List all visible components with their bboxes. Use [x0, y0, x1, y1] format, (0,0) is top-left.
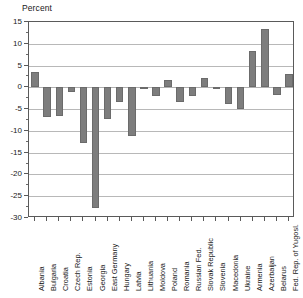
y-tick-label: -25	[10, 191, 22, 200]
x-tick-label: Macedonia	[231, 255, 240, 291]
x-tick	[276, 217, 277, 221]
bar	[80, 87, 88, 143]
y-axis: 151050-5-10-15-20-25-30	[0, 21, 28, 217]
chart-title: Percent	[22, 3, 52, 13]
bar	[225, 87, 233, 104]
bar	[285, 74, 293, 88]
x-tick-label: Croatia	[61, 267, 70, 291]
y-tick-label: 10	[13, 38, 22, 47]
x-tick-label: Albania	[37, 266, 46, 291]
x-tick	[95, 217, 96, 221]
x-tick-label: Bulgaria	[49, 264, 58, 291]
y-tick-label: -5	[15, 104, 22, 113]
x-tick	[82, 217, 83, 221]
bar	[201, 78, 209, 88]
x-tick-label: Fed. Rep. of Yugosl.	[291, 224, 300, 291]
x-tick	[215, 217, 216, 221]
y-tick-label: 5	[18, 60, 22, 69]
chart-figure: Percent 151050-5-10-15-20-25-30 AlbaniaB…	[0, 0, 303, 298]
x-tick	[131, 217, 132, 221]
x-tick-label: Lithuania	[146, 261, 155, 291]
footer-cut-text	[0, 289, 303, 298]
bar	[104, 87, 112, 119]
bar	[189, 87, 197, 95]
x-tick	[288, 217, 289, 221]
bar	[261, 29, 269, 87]
y-tick-label: 0	[18, 82, 22, 91]
x-tick-label: Romania	[182, 261, 191, 291]
bar	[140, 87, 148, 89]
x-tick	[191, 217, 192, 221]
y-tick-label: -15	[10, 147, 22, 156]
bar	[92, 87, 100, 208]
x-tick	[107, 217, 108, 221]
x-tick-label: Estonia	[85, 266, 94, 291]
bar	[164, 80, 172, 87]
bar	[116, 87, 124, 101]
bar	[68, 87, 76, 91]
x-tick	[70, 217, 71, 221]
x-tick-label: Armenia	[255, 263, 264, 291]
x-tick-label: Czech Rep.	[73, 252, 82, 291]
y-tick-label: -20	[10, 169, 22, 178]
bar	[152, 87, 160, 96]
x-tick-label: Slovenia	[218, 263, 227, 291]
x-tick	[58, 217, 59, 221]
plot-area	[28, 21, 294, 217]
bar	[249, 51, 257, 88]
bar-series	[29, 22, 293, 216]
x-tick-label: Russian Fed.	[194, 247, 203, 291]
x-tick-label: Azerbaijan	[267, 256, 276, 291]
y-tick-label: -30	[10, 213, 22, 222]
x-axis: AlbaniaBulgariaCroatiaCzech Rep.EstoniaG…	[28, 217, 294, 298]
x-tick	[167, 217, 168, 221]
x-tick	[228, 217, 229, 221]
x-tick-label: Georgia	[98, 265, 107, 291]
bar	[237, 87, 245, 109]
x-tick-label: Hungary	[122, 263, 131, 291]
x-tick	[203, 217, 204, 221]
bar	[31, 72, 39, 88]
x-tick	[179, 217, 180, 221]
x-tick-label: Slovak Republic	[206, 238, 215, 291]
x-tick	[264, 217, 265, 221]
x-tick-label: East Germany	[110, 244, 119, 291]
bar	[43, 87, 51, 117]
x-tick	[34, 217, 35, 221]
bar	[273, 87, 281, 95]
y-tick-label: -10	[10, 125, 22, 134]
x-tick-label: Belarus	[279, 266, 288, 291]
x-tick-label: Poland	[170, 268, 179, 291]
x-tick	[252, 217, 253, 221]
x-tick	[46, 217, 47, 221]
x-tick	[119, 217, 120, 221]
bar	[128, 87, 136, 136]
bar	[176, 87, 184, 102]
x-tick-label: Moldova	[158, 263, 167, 291]
y-tick-label: 15	[13, 17, 22, 26]
x-tick	[240, 217, 241, 221]
bar	[56, 87, 64, 115]
bar	[213, 87, 221, 89]
x-tick-label: Ukraine	[243, 266, 252, 291]
x-tick	[143, 217, 144, 221]
x-tick	[155, 217, 156, 221]
